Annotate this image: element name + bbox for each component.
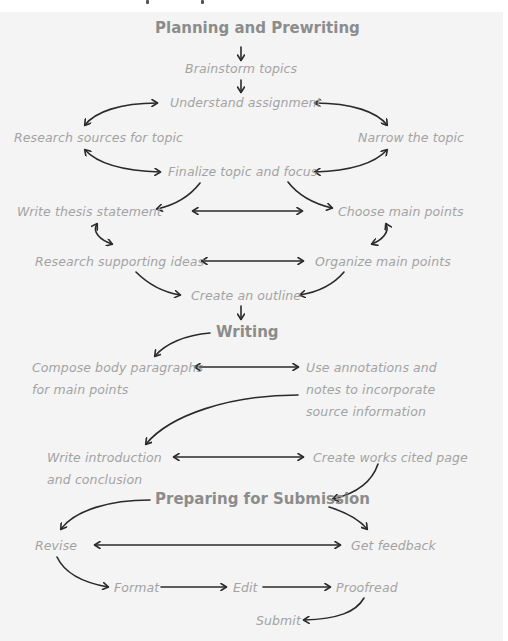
double-arrow-icon xyxy=(85,103,157,125)
step-compose-body-line2: for main points xyxy=(32,380,128,400)
section-title-planning: Planning and Prewriting xyxy=(155,19,360,37)
arrow-icon xyxy=(146,395,298,444)
double-arrow-icon xyxy=(315,150,387,172)
arrow-icon xyxy=(57,557,108,587)
step-annotations-line2: notes to incorporate xyxy=(306,380,435,400)
step-create-outline: Create an outline xyxy=(191,286,301,306)
step-proofread: Proofread xyxy=(336,578,398,598)
step-research-supporting-ideas: Research supporting ideas xyxy=(35,252,204,272)
step-annotations-line1: Use annotations and xyxy=(306,358,437,378)
double-arrow-icon xyxy=(372,224,387,244)
step-understand-assignment: Understand assignment xyxy=(170,93,322,113)
step-format: Format xyxy=(114,578,159,598)
step-compose-body-line1: Compose body paragraphs xyxy=(32,358,203,378)
arrow-icon xyxy=(329,507,367,529)
step-narrow-topic: Narrow the topic xyxy=(358,128,464,148)
step-choose-main-points: Choose main points xyxy=(338,202,464,222)
step-intro-line2: and conclusion xyxy=(47,470,142,490)
step-intro-line1: Write introduction xyxy=(47,448,162,468)
double-arrow-icon xyxy=(315,103,387,125)
arrow-icon xyxy=(61,500,150,529)
arrow-icon xyxy=(300,272,344,295)
step-organize-main-points: Organize main points xyxy=(315,252,451,272)
step-annotations-line3: source information xyxy=(306,402,426,422)
arrow-icon xyxy=(136,272,180,295)
step-get-feedback: Get feedback xyxy=(351,536,436,556)
step-revise: Revise xyxy=(35,536,77,556)
arrow-icon xyxy=(288,182,332,208)
double-arrow-icon xyxy=(95,224,112,244)
arrow-icon xyxy=(304,598,364,620)
step-brainstorm: Brainstorm topics xyxy=(185,59,297,79)
step-works-cited: Create works cited page xyxy=(313,448,468,468)
arrow-icon xyxy=(157,183,200,209)
arrow-icon xyxy=(155,333,210,356)
double-arrow-icon xyxy=(85,150,160,172)
step-research-sources: Research sources for topic xyxy=(14,128,183,148)
step-edit: Edit xyxy=(233,578,258,598)
step-submit: Submit xyxy=(256,611,301,631)
section-title-submission: Preparing for Submission xyxy=(155,490,370,508)
step-thesis-statement: Write thesis statement xyxy=(17,202,162,222)
step-finalize-topic: Finalize topic and focus xyxy=(168,162,317,182)
section-title-writing: Writing xyxy=(216,323,279,341)
